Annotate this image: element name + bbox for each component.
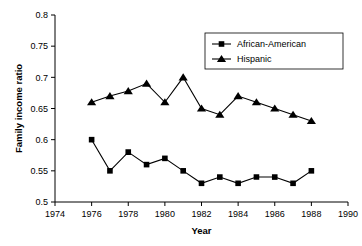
y-tick-label: 0.65 [30,104,48,114]
legend-label: African-American [237,39,306,49]
data-point-marker [235,181,241,187]
data-point-marker [217,174,223,180]
chart-container: 0.50.550.60.650.70.750.81974197619781980… [0,0,362,246]
y-tick-label: 0.5 [35,197,48,207]
x-tick-label: 1984 [228,209,248,219]
data-point-marker [272,174,278,180]
x-tick-label: 1986 [265,209,285,219]
data-point-marker [234,92,243,99]
data-point-marker [124,87,133,94]
y-axis-title: Family income ratio [13,64,24,153]
data-point-marker [107,168,113,174]
data-point-marker [125,149,131,155]
data-point-marker [179,73,188,80]
data-point-marker [142,80,151,87]
y-tick-label: 0.8 [35,10,48,20]
x-tick-label: 1990 [338,209,358,219]
x-tick-label: 1974 [45,209,65,219]
data-point-marker [288,111,297,118]
y-tick-label: 0.75 [30,41,48,51]
data-point-marker [144,162,150,168]
data-point-marker [199,181,205,187]
x-tick-label: 1980 [155,209,175,219]
legend-label: Hispanic [237,54,272,64]
x-tick-label: 1988 [301,209,321,219]
series-line-2 [92,77,312,121]
data-point-marker [197,105,206,112]
y-tick-label: 0.7 [35,73,48,83]
data-point-marker [290,181,296,187]
x-tick-label: 1976 [82,209,102,219]
y-tick-label: 0.55 [30,166,48,176]
data-point-marker [270,105,279,112]
y-tick-label: 0.6 [35,135,48,145]
line-chart: 0.50.550.60.650.70.750.81974197619781980… [0,0,362,246]
data-point-marker [309,168,315,174]
data-point-marker [162,156,168,162]
data-point-marker [87,98,96,105]
x-axis-title: Year [191,225,211,236]
x-tick-label: 1982 [191,209,211,219]
series-line-1 [92,140,312,184]
data-point-marker [307,117,316,124]
data-point-marker [89,137,95,143]
data-point-marker [254,174,260,180]
x-tick-label: 1978 [118,209,138,219]
data-point-marker [252,98,261,105]
data-point-marker [180,168,186,174]
legend-marker-square [219,41,225,47]
